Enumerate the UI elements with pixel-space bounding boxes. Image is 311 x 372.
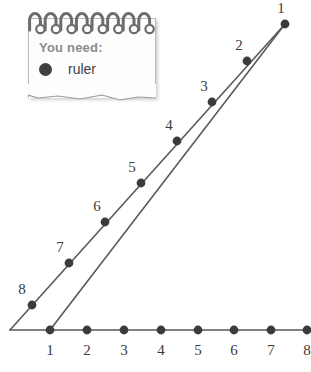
point-dot[interactable] (65, 259, 74, 268)
point-dot[interactable] (28, 301, 37, 310)
point-label: 7 (267, 342, 275, 358)
point-dot[interactable] (303, 326, 311, 335)
spiral-ring-hole-icon (130, 25, 138, 33)
point-label: 1 (277, 0, 285, 16)
spiral-ring-hole-icon (83, 25, 91, 33)
point-dot[interactable] (101, 218, 110, 227)
point-label: 8 (303, 342, 311, 358)
point-dot[interactable] (157, 326, 166, 335)
notepad-torn-edge-icon (28, 84, 156, 106)
filled-circle-bullet-icon (39, 63, 52, 76)
point-label: 2 (235, 37, 243, 53)
point-dot[interactable] (137, 179, 146, 188)
spiral-ring-hole-icon (52, 25, 60, 33)
spiral-ring-hole-icon (67, 25, 75, 33)
point-dot[interactable] (208, 98, 217, 107)
point-label: 4 (157, 342, 165, 358)
point-label: 5 (128, 159, 136, 175)
point-label: 6 (230, 342, 238, 358)
point-label: 8 (18, 281, 26, 297)
point-dot[interactable] (281, 20, 290, 29)
notepad-spiral-rings-icon (22, 4, 164, 38)
spiral-ring-hole-icon (145, 25, 153, 33)
point-label: 3 (120, 342, 128, 358)
point-label: 1 (46, 342, 54, 358)
point-label: 7 (56, 239, 64, 255)
point-label: 5 (194, 342, 202, 358)
point-dot[interactable] (267, 326, 276, 335)
point-dot[interactable] (46, 326, 55, 335)
point-label: 4 (165, 117, 173, 133)
point-label: 2 (83, 342, 91, 358)
spiral-ring-hole-icon (36, 25, 44, 33)
point-dot[interactable] (83, 326, 92, 335)
you-need-notepad: You need: ruler (28, 18, 156, 102)
point-dot[interactable] (120, 326, 129, 335)
point-label: 6 (93, 198, 101, 214)
notepad-heading: You need: (39, 40, 103, 55)
point-dot[interactable] (243, 57, 252, 66)
spiral-ring-hole-icon (114, 25, 122, 33)
notepad-item: ruler (39, 61, 96, 77)
spiral-ring-hole-icon (99, 25, 107, 33)
notepad-item-label: ruler (68, 61, 96, 77)
point-dot[interactable] (194, 326, 203, 335)
point-dot[interactable] (230, 326, 239, 335)
illustration-canvas: 1234567812345678 You need: ruler (0, 0, 311, 372)
point-label: 3 (200, 78, 208, 94)
point-dot[interactable] (173, 137, 182, 146)
